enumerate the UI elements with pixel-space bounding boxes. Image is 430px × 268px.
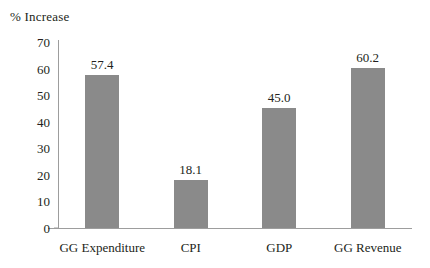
x-axis-category-label: GDP <box>266 240 292 255</box>
y-axis-tick-label: 60 <box>26 62 50 75</box>
y-axis-tick-label: 30 <box>26 142 50 155</box>
x-axis-line <box>48 228 412 229</box>
y-axis-tick-label: 50 <box>26 89 50 102</box>
bar-group: 57.4 <box>85 42 119 228</box>
bar-group: 60.2 <box>351 42 385 228</box>
bar[interactable] <box>262 108 296 228</box>
y-axis-title: % Increase <box>10 9 69 25</box>
y-axis-tick-mark <box>54 228 58 229</box>
bar-value-label: 18.1 <box>179 163 202 176</box>
bar[interactable] <box>85 75 119 228</box>
y-axis-tick-label: 20 <box>26 168 50 181</box>
y-axis-tick-label: 0 <box>26 222 50 235</box>
y-axis-tick-label: 10 <box>26 195 50 208</box>
y-axis-tick-label: 40 <box>26 115 50 128</box>
bar-chart: % Increase 01020304050607057.418.145.060… <box>0 0 430 268</box>
plot-area: 01020304050607057.418.145.060.2 <box>58 42 412 228</box>
x-axis-category-label: GG Revenue <box>334 240 402 255</box>
bar-group: 18.1 <box>174 42 208 228</box>
x-axis-category-label: CPI <box>181 240 201 255</box>
bar[interactable] <box>174 180 208 228</box>
bar-value-label: 57.4 <box>91 58 114 71</box>
bar-value-label: 60.2 <box>356 51 379 64</box>
bar[interactable] <box>351 68 385 228</box>
y-axis-tick-label: 70 <box>26 36 50 49</box>
x-axis-category-label: GG Expenditure <box>59 240 145 255</box>
bar-value-label: 45.0 <box>268 91 291 104</box>
bar-group: 45.0 <box>262 42 296 228</box>
